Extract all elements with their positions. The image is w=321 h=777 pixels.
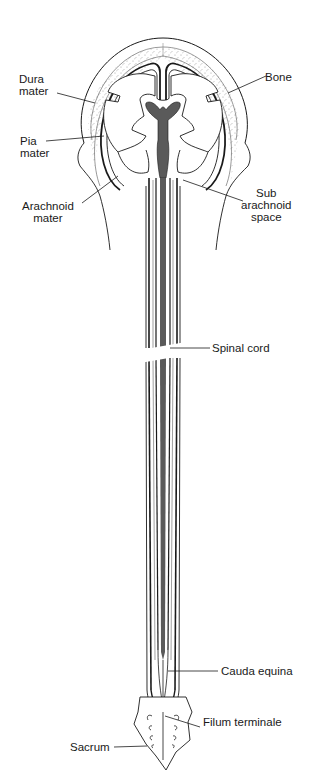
label-filum-terminale-line1: Filum terminale xyxy=(203,716,282,728)
label-sub-arachnoid-space: Sub arachnoid space xyxy=(241,187,292,223)
label-dura-mater-line2: mater xyxy=(19,85,48,97)
label-sacrum-line1: Sacrum xyxy=(70,741,110,753)
label-pia-mater-line2: mater xyxy=(20,147,49,159)
label-sub-arachnoid-space-line1: Sub xyxy=(241,187,292,199)
label-sub-arachnoid-space-line3: space xyxy=(241,211,292,223)
label-spinal-cord-line1: Spinal cord xyxy=(212,342,270,354)
spinal-column xyxy=(146,178,180,760)
label-cauda-equina-line1: Cauda equina xyxy=(221,665,293,677)
label-pia-mater-line1: Pia xyxy=(20,135,49,147)
meninges-diagram xyxy=(0,0,321,777)
label-arachnoid-mater-line2: mater xyxy=(22,212,74,224)
sacrum-bone xyxy=(134,697,192,770)
label-filum-terminale: Filum terminale xyxy=(203,716,282,728)
label-cauda-equina: Cauda equina xyxy=(221,665,293,677)
label-dura-mater-line1: Dura xyxy=(19,73,48,85)
label-arachnoid-mater-line1: Arachnoid xyxy=(22,200,74,212)
label-bone-line1: Bone xyxy=(265,71,292,83)
label-sacrum: Sacrum xyxy=(70,741,110,753)
label-pia-mater: Pia mater xyxy=(20,135,49,159)
label-dura-mater: Dura mater xyxy=(19,73,48,97)
label-spinal-cord: Spinal cord xyxy=(212,342,270,354)
label-arachnoid-mater: Arachnoid mater xyxy=(22,200,74,224)
label-sub-arachnoid-space-line2: arachnoid xyxy=(241,199,292,211)
label-bone: Bone xyxy=(265,71,292,83)
